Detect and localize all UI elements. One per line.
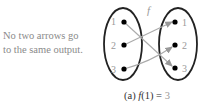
domain-dot-3 bbox=[121, 66, 126, 71]
function-mapping-diagram: f 1 2 3 1 2 3 bbox=[0, 0, 209, 107]
codomain-oval bbox=[159, 8, 197, 80]
caption-argument: (1) = bbox=[141, 90, 164, 101]
arrow-1-to-3 bbox=[124, 22, 172, 66]
domain-label-1: 1 bbox=[111, 16, 116, 27]
caption-prefix: (a) bbox=[124, 90, 136, 101]
arrow-2-to-1 bbox=[124, 22, 172, 45]
function-label: f bbox=[147, 4, 152, 16]
domain-label-3: 3 bbox=[111, 64, 116, 75]
diagram-caption: (a) f(1) = 3 bbox=[124, 90, 170, 101]
codomain-label-2: 2 bbox=[182, 40, 187, 51]
codomain-label-1: 1 bbox=[182, 17, 187, 28]
domain-dot-2 bbox=[121, 42, 126, 47]
domain-dot-1 bbox=[121, 19, 126, 24]
codomain-dot-2 bbox=[172, 42, 177, 47]
domain-label-2: 2 bbox=[111, 40, 116, 51]
caption-value: 3 bbox=[165, 90, 170, 101]
codomain-dot-1 bbox=[172, 19, 177, 24]
arrow-3-to-2 bbox=[124, 47, 172, 69]
codomain-label-3: 3 bbox=[182, 63, 187, 74]
codomain-dot-3 bbox=[172, 65, 177, 70]
